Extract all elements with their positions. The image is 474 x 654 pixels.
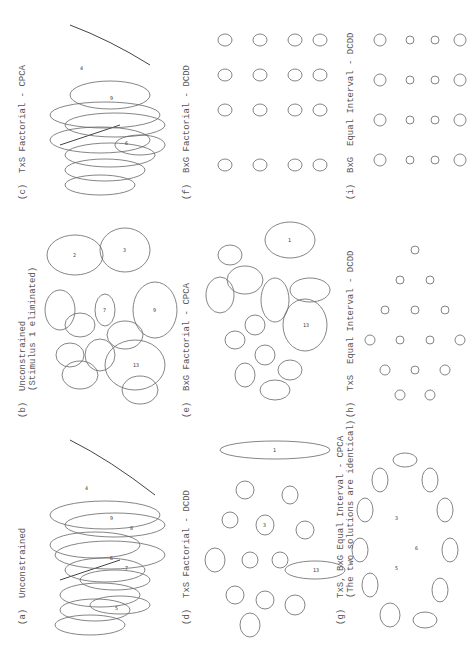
svg-text:7: 7	[103, 307, 106, 313]
svg-text:3: 3	[263, 522, 266, 528]
svg-text:9: 9	[110, 95, 113, 101]
panel-e-plot: 113	[195, 215, 335, 405]
panel-c-label: (c) TxS Factorial - CPCA	[18, 65, 28, 200]
svg-text:3: 3	[123, 247, 126, 253]
svg-text:6: 6	[110, 555, 113, 561]
svg-text:6: 6	[125, 140, 128, 146]
panel-f-label: (f) BxG Factorial - DCDD	[182, 65, 192, 200]
svg-text:1: 1	[273, 447, 276, 453]
svg-text:3: 3	[395, 515, 398, 521]
panel-g-plot: 365	[350, 440, 470, 640]
svg-text:2: 2	[73, 252, 76, 258]
svg-text:9: 9	[110, 515, 113, 521]
svg-text:6: 6	[415, 545, 418, 551]
svg-text:7: 7	[125, 565, 128, 571]
panel-c-plot: 496	[30, 5, 170, 200]
svg-text:4: 4	[80, 65, 83, 71]
svg-text:9: 9	[153, 307, 156, 313]
svg-text:13: 13	[313, 567, 319, 573]
panel-b-plot: 237 139	[30, 215, 170, 405]
svg-text:5: 5	[115, 605, 118, 611]
panel-f-plot	[205, 20, 335, 190]
svg-text:5: 5	[395, 565, 398, 571]
panel-d-plot: 1313	[195, 420, 335, 650]
panel-e-label: (e) BxG Factorial - CPCA	[182, 283, 192, 418]
panel-d-label: (d) TxS Factorial - DCDD	[182, 490, 192, 625]
panel-h-label: (h) TxS Equal Interval - DCDD	[346, 251, 356, 418]
panel-a-label: (a) Unconstrained	[18, 528, 28, 625]
svg-text:13: 13	[303, 322, 309, 328]
panel-i-label: (i) BxG Equal Interval - DCDD	[346, 33, 356, 200]
svg-text:13: 13	[133, 362, 139, 368]
svg-text:8: 8	[130, 525, 133, 531]
panel-h-plot	[360, 230, 470, 410]
svg-text:1: 1	[288, 237, 291, 243]
svg-text:4: 4	[85, 485, 88, 491]
panel-a-plot: 498 675	[30, 420, 170, 650]
panel-i-plot	[365, 20, 470, 190]
